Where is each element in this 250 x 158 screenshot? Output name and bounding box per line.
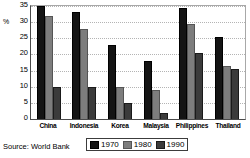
bar-group (141, 6, 171, 119)
bar (80, 29, 88, 119)
bar-group (69, 6, 99, 119)
bar (37, 6, 45, 119)
y-axis-tick-label: 20 (20, 50, 28, 58)
legend-item: 1990 (156, 140, 185, 149)
legend-label: 1990 (167, 140, 185, 149)
bar (124, 103, 132, 119)
x-axis-tick-label: Malaysia (138, 122, 174, 134)
chart-legend: 197019801990 (86, 138, 188, 151)
bar-group (34, 6, 64, 119)
x-axis-tick-label: China (30, 122, 66, 134)
legend-item: 1970 (90, 140, 119, 149)
y-axis-tick-label: 0 (24, 114, 28, 122)
x-axis-category-labels: ChinaIndonesiaKoreaMalaysiaPhilippinesTh… (30, 122, 246, 134)
bar (45, 16, 53, 119)
y-axis-tick-label: 35 (20, 1, 28, 9)
bar (231, 69, 239, 119)
bar-group (176, 6, 206, 119)
y-axis-unit-label: % (3, 18, 9, 25)
bar (223, 66, 231, 119)
legend-item: 1980 (123, 140, 152, 149)
bar (88, 87, 96, 119)
chart-footer: Source: World Bank 197019801990 (0, 136, 250, 158)
y-axis-tick-label: 10 (20, 82, 28, 90)
y-axis-tick-labels: 35302520151050 (12, 0, 28, 126)
source-note: Source: World Bank (3, 142, 70, 151)
bar (72, 12, 80, 119)
bar (108, 45, 116, 119)
legend-swatch-icon (156, 141, 165, 149)
bar (152, 90, 160, 119)
y-axis-tick-label: 15 (20, 66, 28, 74)
legend-label: 1980 (134, 140, 152, 149)
bar (187, 24, 195, 119)
bar-chart-figure: % 35302520151050 ChinaIndonesiaKoreaMala… (0, 0, 250, 158)
y-axis-tick-label: 25 (20, 34, 28, 42)
bar (215, 37, 223, 119)
bar (116, 87, 124, 119)
x-axis-tick-label: Korea (102, 122, 138, 134)
x-axis-tick-label: Thailand (210, 122, 246, 134)
legend-label: 1970 (101, 140, 119, 149)
legend-swatch-icon (123, 141, 132, 149)
bar (53, 87, 61, 119)
bar (144, 61, 152, 119)
bar (179, 8, 187, 119)
y-axis-tick-label: 30 (20, 17, 28, 25)
bar-groups (31, 6, 245, 119)
y-axis-tick-label: 5 (24, 98, 28, 106)
bar (160, 113, 168, 119)
bar (195, 53, 203, 119)
bar-group (212, 6, 242, 119)
legend-swatch-icon (90, 141, 99, 149)
bar-group (105, 6, 135, 119)
chart-area: % 35302520151050 ChinaIndonesiaKoreaMala… (0, 0, 250, 136)
x-axis-tick-label: Indonesia (66, 122, 102, 134)
x-axis-tick-label: Philippines (174, 122, 210, 134)
plot-area (30, 5, 246, 120)
